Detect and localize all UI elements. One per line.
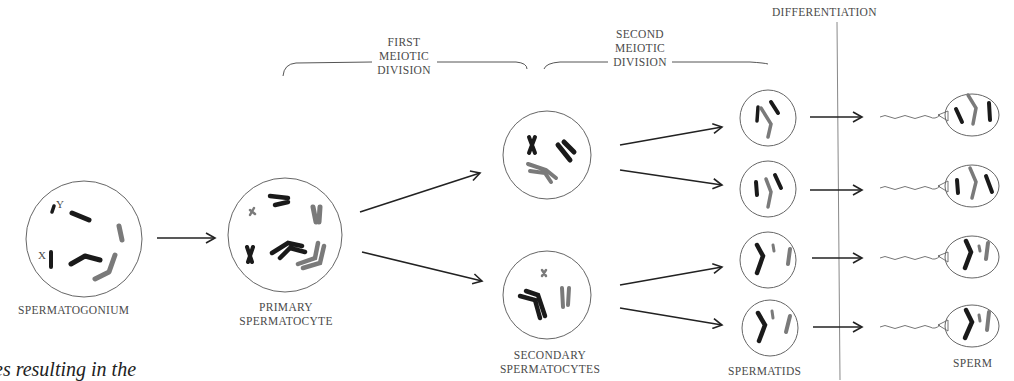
arrow-to-spermatid-4 <box>620 308 722 325</box>
first-meiotic-line3: DIVISION <box>369 63 439 77</box>
first-meiotic-line1: FIRST <box>369 35 439 49</box>
label-primary-spermatocyte: PRIMARY SPERMATOCYTE <box>231 300 341 328</box>
cell-primary-spermatocyte <box>228 178 342 292</box>
cell-spermatid-3 <box>740 232 796 288</box>
label-y-chromosome: Y <box>56 197 64 211</box>
second-meiotic-line3: DIVISION <box>605 55 675 69</box>
arrow-to-spermatid-3 <box>620 267 722 285</box>
label-primary-line2: SPERMATOCYTE <box>231 314 341 328</box>
sperm-1 <box>880 94 999 136</box>
arrow-to-spermatid-1 <box>620 127 722 145</box>
label-first-meiotic-division: FIRST MEIOTIC DIVISION <box>369 35 439 77</box>
cell-secondary-spermatocyte-top <box>503 111 591 199</box>
cell-secondary-spermatocyte-bottom <box>503 251 591 339</box>
cell-spermatid-1 <box>740 90 796 146</box>
cell-spermatid-4 <box>742 300 798 356</box>
caption-fragment: es resulting in the <box>0 358 136 381</box>
sperm-3 <box>880 236 999 278</box>
cell-spermatid-2 <box>740 161 796 217</box>
arrow-to-spermatid-2 <box>620 170 722 185</box>
label-spermatogonium: SPERMATOGONIUM <box>18 303 129 317</box>
label-sperm: SPERM <box>953 356 992 370</box>
label-primary-line1: PRIMARY <box>231 300 341 314</box>
second-meiotic-line1: SECOND <box>605 27 675 41</box>
sperm-2 <box>880 165 999 207</box>
label-spermatids: SPERMATIDS <box>728 364 801 378</box>
label-x-chromosome: X <box>38 248 46 262</box>
sperm-4 <box>880 305 999 347</box>
cell-spermatogonium <box>26 181 142 297</box>
label-secondary-line2: SPERMATOCYTES <box>491 362 609 376</box>
second-meiotic-line2: MEIOTIC <box>605 41 675 55</box>
label-secondary-spermatocytes: SECONDARY SPERMATOCYTES <box>491 348 609 376</box>
label-second-meiotic-division: SECOND MEIOTIC DIVISION <box>605 27 675 69</box>
first-meiotic-line2: MEIOTIC <box>369 49 439 63</box>
label-differentiation: DIFFERENTIATION <box>772 5 877 19</box>
arrow-to-secondary-top <box>360 173 480 212</box>
label-secondary-line1: SECONDARY <box>491 348 609 362</box>
arrow-to-secondary-bottom <box>362 252 482 281</box>
